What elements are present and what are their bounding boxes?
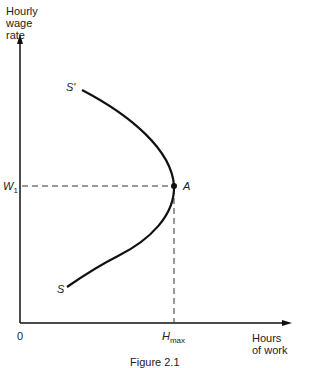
y-axis-label: Hourly wage rate (6, 5, 38, 41)
s-prime-label: S' (66, 81, 75, 93)
figure-caption: Figure 2.1 (130, 356, 180, 368)
x-axis-arrow-icon (282, 320, 292, 326)
s-label: S (57, 283, 64, 295)
origin-label: 0 (17, 330, 23, 342)
x-axis-label: Hours of work (252, 332, 287, 356)
w1-label: W1 (3, 180, 18, 197)
point-a-marker (171, 183, 177, 189)
supply-curve (67, 90, 174, 287)
hmax-label: Hmax (162, 330, 185, 347)
point-a-label: A (183, 180, 190, 192)
